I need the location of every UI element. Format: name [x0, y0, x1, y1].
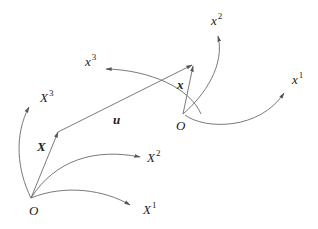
displacement-vector-u	[58, 65, 192, 132]
label-X1: X1	[142, 200, 156, 217]
label-X2: X2	[146, 148, 160, 165]
origin-label-reference: O	[29, 203, 39, 218]
axis-curve-x2	[183, 36, 219, 114]
axis-curve-X1	[31, 190, 130, 205]
origin-label-current: O	[176, 118, 186, 133]
label-X3: X3	[39, 88, 54, 105]
axis-curve-x3	[106, 69, 201, 114]
position-vector-x	[183, 66, 193, 114]
current-frame	[106, 36, 284, 124]
coordinate-diagram: O X X3 X2 X1 u O x x2 x1 x3	[0, 0, 318, 229]
label-x2: x2	[210, 11, 222, 28]
axis-curve-X2	[31, 154, 140, 198]
label-X: X	[36, 139, 46, 154]
label-x1: x1	[291, 70, 303, 87]
axis-curve-X3	[19, 107, 31, 198]
axis-curve-x1	[185, 93, 284, 124]
label-x: x	[176, 77, 184, 92]
label-u: u	[113, 112, 120, 127]
label-x3: x3	[84, 52, 97, 69]
